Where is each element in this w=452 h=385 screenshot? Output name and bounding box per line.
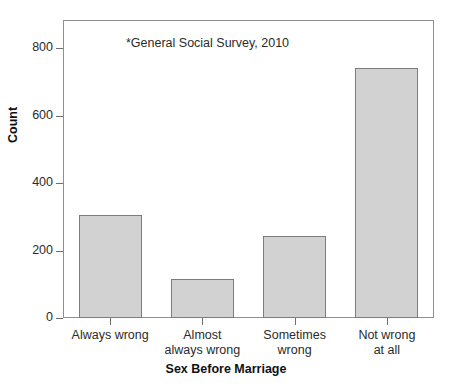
y-axis-tick-label: 800: [32, 41, 53, 54]
y-axis-tick-label: 200: [32, 244, 53, 257]
x-axis-tick-label-line: at all: [331, 343, 443, 358]
bar: [171, 279, 234, 318]
y-axis-tick-label: 400: [32, 176, 53, 189]
y-axis-tick: [56, 48, 63, 49]
x-axis-tick-label: Not wrongat all: [331, 328, 443, 358]
y-axis-title: Count: [6, 107, 20, 143]
x-axis-tick-label-line: Not wrong: [331, 328, 443, 343]
y-axis-tick: [56, 251, 63, 252]
x-axis-tick: [202, 318, 203, 325]
bar: [355, 68, 418, 318]
x-axis-tick: [295, 318, 296, 325]
bar: [79, 215, 142, 318]
bar: [263, 236, 326, 318]
x-axis-tick: [387, 318, 388, 325]
x-axis-tick: [110, 318, 111, 325]
y-axis-tick-label: 600: [32, 109, 53, 122]
bars-container: [64, 21, 433, 318]
bar-chart: *General Social Survey, 2010 Count Sex B…: [0, 0, 452, 385]
y-axis-tick: [56, 183, 63, 184]
y-axis-tick: [56, 116, 63, 117]
y-axis-tick: [56, 318, 63, 319]
y-axis-tick-label: 0: [46, 311, 53, 324]
x-axis-title: Sex Before Marriage: [0, 362, 452, 376]
